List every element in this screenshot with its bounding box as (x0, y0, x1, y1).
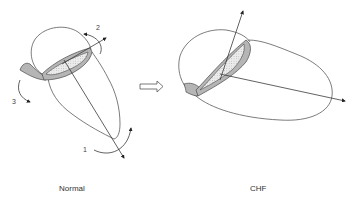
chf-caption: CHF (250, 184, 266, 193)
motion-3-curved-arrow (18, 80, 30, 102)
heart-geometry-diagram (0, 0, 357, 203)
motion-label-3: 3 (12, 98, 16, 105)
normal-long-axis-arrow (64, 60, 124, 158)
chf-long-axis-arrow (220, 74, 345, 101)
normal-caption: Normal (59, 184, 85, 193)
chf-heart (179, 11, 345, 120)
motion-label-1: 1 (83, 146, 87, 153)
transition-arrow-icon (140, 81, 163, 92)
normal-heart (18, 27, 131, 158)
normal-leaflet-tail (20, 63, 46, 80)
motion-label-2: 2 (96, 24, 100, 31)
